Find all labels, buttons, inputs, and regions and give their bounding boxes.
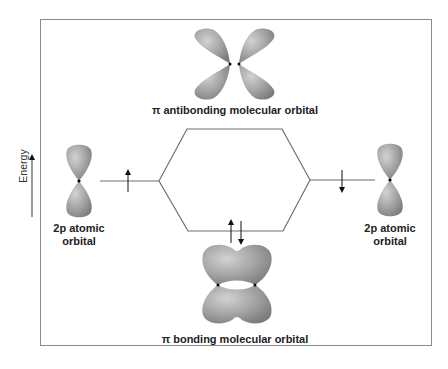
left-atomic-label-line1: 2p atomic [49,222,109,235]
energy-axis-label: Energy [17,141,29,191]
mo-diagram [0,0,448,369]
right-atomic-label: 2p atomic orbital [360,222,420,248]
right-atomic-label-line1: 2p atomic [360,222,420,235]
left-atomic-label-line2: orbital [49,235,109,248]
bonding-label: π bonding molecular orbital [145,333,325,346]
energy-level-lines [100,129,375,231]
right-atomic-label-line2: orbital [360,235,420,248]
left-atomic-label: 2p atomic orbital [49,222,109,248]
right-2p-orbital-icon [377,144,403,217]
bonding-orbital-icon [202,245,271,324]
antibonding-orbital-icon [195,28,275,99]
antibonding-label: π antibonding molecular orbital [150,104,320,117]
left-2p-orbital-icon [66,145,92,218]
